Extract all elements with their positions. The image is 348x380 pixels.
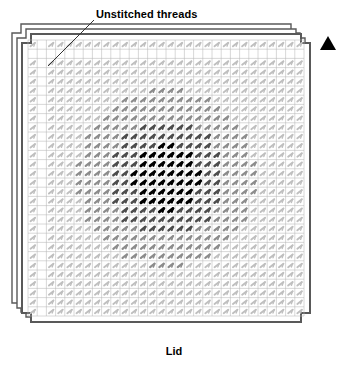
- diagram-canvas: Unstitched threads Lid: [0, 0, 348, 380]
- caption-lid: Lid: [0, 345, 348, 357]
- lid-stitch-diagram: [0, 0, 348, 380]
- pin1-triangle-icon: [320, 36, 336, 50]
- callout-unstitched-threads: Unstitched threads: [96, 8, 197, 20]
